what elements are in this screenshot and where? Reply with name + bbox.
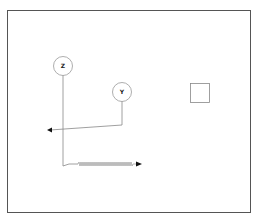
- node-z-label: Z: [61, 62, 66, 69]
- square-box[interactable]: [191, 84, 210, 103]
- diagram-frame: [8, 11, 251, 213]
- node-y-label: Y: [119, 88, 125, 95]
- diagram-canvas: Z Y: [0, 0, 258, 221]
- node-z[interactable]: Z: [54, 57, 73, 76]
- node-y[interactable]: Y: [113, 83, 132, 102]
